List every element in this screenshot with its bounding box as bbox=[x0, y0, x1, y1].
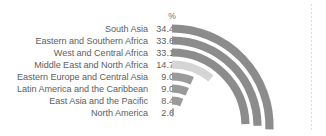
curved-bar bbox=[172, 89, 187, 92]
curved-bar bbox=[172, 101, 182, 103]
curved-bar-chart: % South Asia Eastern and Southern Africa… bbox=[0, 0, 326, 136]
curved-bar bbox=[172, 77, 192, 81]
dotted-rule-decoration bbox=[311, 4, 312, 132]
curved-bars-group bbox=[0, 0, 326, 136]
